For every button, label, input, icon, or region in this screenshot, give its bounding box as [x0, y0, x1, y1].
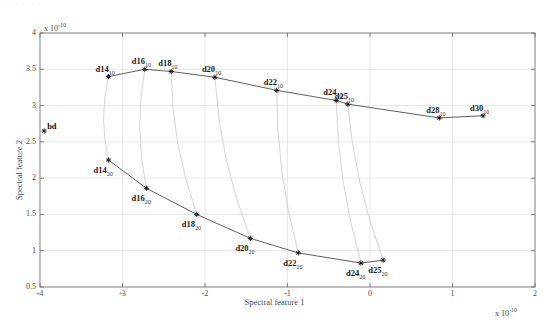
point-label-d25-10: d2510	[335, 91, 354, 103]
point-label-text: d16	[131, 193, 144, 203]
point-label-text: d20	[235, 243, 248, 253]
x-axis-exponent: x 10-10	[495, 307, 517, 318]
y-tick-label: 1.5	[10, 209, 36, 218]
connector-line	[336, 100, 361, 263]
point-label-text: d22	[264, 77, 277, 87]
connector-line	[104, 77, 109, 160]
point-label-subscript: 20	[249, 249, 255, 255]
point-label-text: d30	[470, 103, 483, 113]
y-axis-label: Spectral feature 2	[14, 140, 24, 200]
point-label-text: d18	[182, 219, 195, 229]
point-label-subscript: 10	[440, 111, 446, 117]
y-tick-label: 0.5	[10, 282, 36, 291]
point-label-d14-20: d1420	[93, 165, 112, 177]
point-label-d16-20: d1620	[131, 193, 150, 205]
connector-line	[140, 69, 147, 188]
point-label-d16-10: d1610	[132, 56, 151, 68]
point-label-text: d25	[335, 91, 348, 101]
y-axis-exponent: x 10-10	[44, 22, 66, 33]
y-exponent-power: -10	[58, 22, 66, 28]
point-label-d20-10: d2010	[202, 64, 221, 76]
annotation-marker-bd	[42, 128, 47, 133]
y-exponent-mantissa: x 10	[44, 24, 58, 33]
point-label-d18-20: d1820	[182, 219, 201, 231]
x-exponent-power: -10	[509, 307, 517, 313]
point-label-subscript: 20	[381, 271, 387, 277]
point-label-d20-20: d2020	[235, 243, 254, 255]
point-label-d22-10: d2210	[264, 77, 283, 89]
point-label-d18-10: d1810	[158, 58, 177, 70]
point-label-subscript: 10	[109, 69, 115, 75]
point-label-text: d16	[132, 56, 145, 66]
connector-line	[348, 104, 383, 260]
y-tick-label: 3.5	[10, 64, 36, 73]
y-tick-label: 1	[10, 246, 36, 255]
point-label-subscript: 10	[145, 62, 151, 68]
x-axis-label: Spectral feature 1	[0, 297, 549, 307]
point-label-text: d24	[346, 268, 359, 278]
point-label-d14-10: d1410	[95, 64, 114, 76]
point-label-subscript: 10	[277, 83, 283, 89]
point-label-text: d20	[202, 64, 215, 74]
plot-svg	[0, 0, 549, 322]
point-label-text: d14	[93, 165, 106, 175]
point-label-text: d18	[158, 58, 171, 68]
point-label-subscript: 10	[483, 108, 489, 114]
point-label-d28-10: d2810	[426, 105, 445, 117]
point-label-d25-20: d2520	[368, 265, 387, 277]
point-label-d30-10: d3010	[470, 103, 489, 115]
point-label-subscript: 10	[171, 64, 177, 70]
point-label-text: d22	[283, 258, 296, 268]
point-label-subscript: 10	[348, 97, 354, 103]
point-label-subscript: 10	[215, 70, 221, 76]
point-label-subscript: 20	[145, 199, 151, 205]
point-label-subscript: 20	[195, 225, 201, 231]
point-label-text: d14	[95, 64, 108, 74]
point-label-text: d28	[426, 105, 439, 115]
point-label-d22-20: d2220	[283, 258, 302, 270]
y-tick-label: 4	[10, 28, 36, 37]
point-label-d24-20: d2420	[346, 268, 365, 280]
x-exponent-mantissa: x 10	[495, 309, 509, 318]
annotation-label-bd: bd	[47, 121, 56, 131]
connector-line	[171, 71, 197, 214]
point-label-subscript: 20	[359, 274, 365, 280]
point-label-subscript: 20	[107, 171, 113, 177]
y-tick-label: 3	[10, 101, 36, 110]
figure-canvas: · · · · · · · · · d1410d1610d1810d2010d2…	[0, 0, 549, 322]
point-label-text: d25	[368, 265, 381, 275]
point-label-subscript: 20	[296, 264, 302, 270]
